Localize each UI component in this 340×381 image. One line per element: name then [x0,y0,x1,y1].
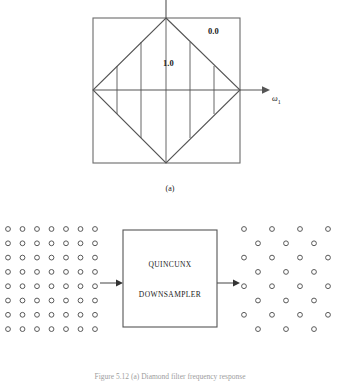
sample-point [78,298,83,303]
sample-point [78,227,83,232]
sample-point [312,241,317,246]
sample-point [298,227,303,232]
sample-point [20,270,25,275]
sample-point [326,227,331,232]
sample-point [6,298,11,303]
sample-point [256,270,261,275]
sample-point [93,241,98,246]
sample-point [270,284,275,289]
quincunx-downsampler-diagram: QUINCUNX DOWNSAMPLER [0,205,340,355]
sample-point [270,227,275,232]
sample-point [20,227,25,232]
sample-point [78,312,83,317]
sample-point [242,284,247,289]
input-arrow-head [116,280,123,287]
sample-point [20,255,25,260]
sample-point [242,255,247,260]
sample-point [284,241,289,246]
sample-point [78,255,83,260]
sample-point [49,270,54,275]
sample-point [35,298,40,303]
output-arrow-head [233,280,240,287]
stopband-value-label: 0.0 [208,26,219,36]
sample-point [326,312,331,317]
sample-point [64,255,69,260]
figure-caption: Figure 5.12 (a) Diamond filter frequency… [0,372,340,381]
figure-container: 1.0 0.0 ω1 (a) QUINCUNX DOWNSAMPLER [0,0,340,381]
sample-point [64,270,69,275]
sample-point [242,227,247,232]
sample-point [93,270,98,275]
sample-point [242,312,247,317]
sample-point [270,312,275,317]
subcaption-a: (a) [0,184,340,193]
sample-point [20,241,25,246]
sample-point [49,255,54,260]
sample-point [6,227,11,232]
sample-point [256,298,261,303]
sample-point [6,255,11,260]
sample-point [6,270,11,275]
omega1-axis-label: ω1 [272,94,281,105]
sample-point [93,312,98,317]
sample-point [64,284,69,289]
sample-point [35,284,40,289]
sample-point [49,327,54,332]
sample-point [78,327,83,332]
sample-point [256,241,261,246]
panel-a-diamond-filter: 1.0 0.0 ω1 (a) [0,0,340,205]
panel-b-quincunx-downsampler: QUINCUNX DOWNSAMPLER (b) [0,205,340,355]
sample-point [49,284,54,289]
sample-point [93,227,98,232]
sample-point [284,270,289,275]
sample-point [78,241,83,246]
sample-point [298,255,303,260]
sample-point [35,270,40,275]
sample-point [284,327,289,332]
sample-point [49,227,54,232]
block-label-line1: QUINCUNX [148,260,191,269]
passband-value-label: 1.0 [163,58,174,68]
sample-point [78,270,83,275]
output-arrow [217,280,240,287]
sample-point [49,298,54,303]
quincunx-downsampler-block [123,230,217,327]
sample-point [312,270,317,275]
sample-point [93,284,98,289]
sample-point [93,255,98,260]
sample-point [78,284,83,289]
sample-point [326,255,331,260]
sample-point [326,284,331,289]
sample-point [20,298,25,303]
sample-point [20,327,25,332]
rectangular-sampling-grid [6,227,98,332]
sample-point [298,284,303,289]
sample-point [6,241,11,246]
sample-point [6,312,11,317]
sample-point [35,241,40,246]
sample-point [20,284,25,289]
sample-point [284,298,289,303]
omega1-axis-arrowhead [262,86,270,94]
sample-point [256,327,261,332]
sample-point [64,227,69,232]
sample-point [49,312,54,317]
sample-point [270,255,275,260]
sample-point [6,327,11,332]
sample-point [64,312,69,317]
sample-point [312,298,317,303]
quincunx-sampling-grid [242,227,331,332]
sample-point [64,241,69,246]
sample-point [93,327,98,332]
sample-point [35,227,40,232]
omega-subscript: 1 [278,99,281,105]
sample-point [35,327,40,332]
input-arrow [100,280,123,287]
sample-point [35,255,40,260]
block-label-line2: DOWNSAMPLER [139,290,201,299]
sample-point [64,298,69,303]
sample-point [35,312,40,317]
sample-point [49,241,54,246]
diamond-filter-diagram [0,0,340,205]
sample-point [298,312,303,317]
